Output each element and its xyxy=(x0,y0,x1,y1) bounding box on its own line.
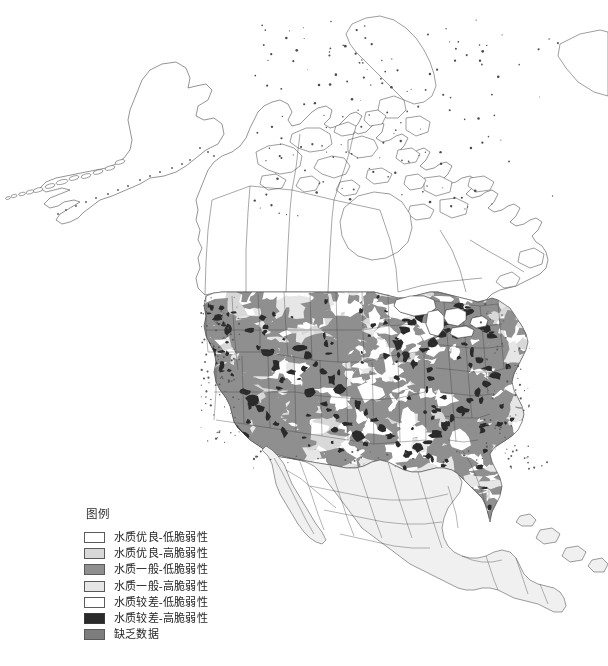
legend-item-poor-quality-low-vulnerability: 水质较差-低脆弱性 xyxy=(84,594,274,610)
legend-swatch-icon xyxy=(84,581,105,592)
legend-swatch-icon xyxy=(84,548,105,559)
legend-item-label: 水质一般-高脆弱性 xyxy=(114,580,208,593)
legend-item-label: 水质优良-低脆弱性 xyxy=(114,531,208,544)
map-figure: 图例 水质优良-低脆弱性 水质优良-高脆弱性 水质一般-低脆弱性 水质一般-高脆… xyxy=(0,0,608,666)
legend-swatch-icon xyxy=(84,597,105,608)
legend-item-poor-quality-high-vulnerability: 水质较差-高脆弱性 xyxy=(84,610,274,626)
legend-title: 图例 xyxy=(86,507,274,521)
legend-item-label: 缺乏数据 xyxy=(114,628,159,641)
legend-item-label: 水质一般-低脆弱性 xyxy=(114,563,208,576)
legend-item-label: 水质较差-低脆弱性 xyxy=(114,596,208,609)
legend-swatch-icon xyxy=(84,613,105,624)
legend-swatch-icon xyxy=(84,629,105,640)
legend-swatch-icon xyxy=(84,532,105,543)
legend-swatch-icon xyxy=(84,564,105,575)
legend-item-fair-quality-low-vulnerability: 水质一般-低脆弱性 xyxy=(84,562,274,578)
legend-item-label: 水质优良-高脆弱性 xyxy=(114,547,208,560)
legend-item-fair-quality-high-vulnerability: 水质一般-高脆弱性 xyxy=(84,578,274,594)
legend: 图例 水质优良-低脆弱性 水质优良-高脆弱性 水质一般-低脆弱性 水质一般-高脆… xyxy=(84,507,274,643)
legend-item-label: 水质较差-高脆弱性 xyxy=(114,612,208,625)
legend-item-no-data: 缺乏数据 xyxy=(84,627,274,643)
legend-item-good-quality-low-vulnerability: 水质优良-低脆弱性 xyxy=(84,529,274,545)
legend-item-good-quality-high-vulnerability: 水质优良-高脆弱性 xyxy=(84,545,274,561)
